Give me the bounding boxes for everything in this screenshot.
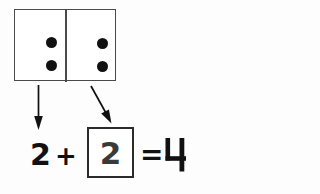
- result-value: [164, 138, 188, 172]
- domino-dot-left-2: [46, 60, 57, 71]
- worksheet-canvas: 2 + 2 =: [0, 0, 192, 194]
- first-addend: 2: [30, 140, 51, 170]
- answer-box-value: 2: [89, 129, 132, 176]
- arrow-to-answer-box: [91, 86, 112, 124]
- equals-operator: =: [140, 141, 163, 169]
- domino-divider: [65, 10, 67, 82]
- arrow-to-first-addend: [34, 85, 43, 130]
- domino-dot-right-1: [97, 38, 108, 49]
- domino-dot-left-1: [46, 37, 57, 48]
- answer-box[interactable]: 2: [87, 127, 134, 178]
- domino-box: [14, 9, 116, 81]
- domino-dot-right-2: [97, 61, 108, 72]
- plus-operator: +: [55, 143, 77, 169]
